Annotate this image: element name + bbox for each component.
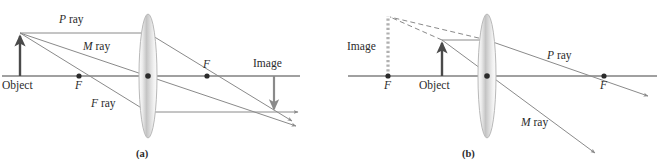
panel-b-lens-center-dot [484,73,490,79]
panel-a-focal-point-right-dot [204,73,209,78]
panel-a-focal-point-left-label: F [75,80,82,92]
panel-a-f-ray-label: F ray [91,98,116,110]
panel-b-caption: (b) [462,148,475,159]
panel-b-focal-point-left-dot [385,73,390,78]
panel-b-object-label: Object [419,80,450,92]
panel-a-m-ray-label: M ray [83,41,110,53]
panel-b-m-ray-label: M ray [521,117,548,129]
panel-b-p-ray-label: P ray [547,50,572,62]
lens-ray-diagram-figure: P ray M ray F ray Object F F Image (a) I… [0,0,659,167]
panel-a-p-ray-label: P ray [59,14,84,26]
diagram-canvas [0,0,659,167]
panel-b-virtual-ray-m-dashed [390,17,442,40]
panel-a-group [2,14,300,138]
panel-a-focal-point-right-label: F [203,59,210,71]
panel-a-image-label: Image [253,58,282,70]
panel-b-m-ray [442,40,595,153]
panel-b-group [348,14,657,153]
panel-b-image-label: Image [347,41,376,53]
panel-a-p-ray-refracted [148,33,292,121]
panel-b-focal-point-left-label: F [384,80,391,92]
panel-b-focal-point-right-label: F [600,80,607,92]
panel-a-object-label: Object [2,80,33,92]
panel-b-focal-point-right-dot [601,73,606,78]
panel-a-focal-point-left-dot [76,73,81,78]
panel-a-caption: (a) [136,148,148,159]
panel-b-virtual-ray-p-dashed [390,17,487,40]
panel-a-lens-center-dot [145,73,151,79]
